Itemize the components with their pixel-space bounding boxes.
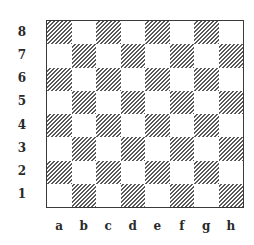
file-label-b: b	[76, 219, 92, 233]
square-g8	[194, 21, 219, 44]
square-c1	[96, 184, 121, 207]
square-d1	[121, 184, 146, 207]
square-h1	[219, 184, 244, 207]
square-f8	[170, 21, 195, 44]
rank-label-7: 7	[14, 48, 30, 62]
file-label-e: e	[149, 219, 165, 233]
square-c4	[96, 114, 121, 137]
square-b6	[72, 68, 97, 91]
square-h3	[219, 137, 244, 160]
square-e4	[145, 114, 170, 137]
square-f7	[170, 44, 195, 67]
square-e8	[145, 21, 170, 44]
square-c6	[96, 68, 121, 91]
square-g4	[194, 114, 219, 137]
square-f5	[170, 91, 195, 114]
square-d8	[121, 21, 146, 44]
square-c3	[96, 137, 121, 160]
square-d6	[121, 68, 146, 91]
square-g1	[194, 184, 219, 207]
square-f4	[170, 114, 195, 137]
rank-label-4: 4	[14, 118, 30, 132]
square-h6	[219, 68, 244, 91]
square-e2	[145, 161, 170, 184]
square-d4	[121, 114, 146, 137]
square-b7	[72, 44, 97, 67]
rank-label-3: 3	[14, 141, 30, 155]
square-h5	[219, 91, 244, 114]
square-e5	[145, 91, 170, 114]
rank-label-5: 5	[14, 94, 30, 108]
square-d2	[121, 161, 146, 184]
square-f2	[170, 161, 195, 184]
rank-label-2: 2	[14, 164, 30, 178]
file-label-d: d	[125, 219, 141, 233]
square-b3	[72, 137, 97, 160]
rank-label-8: 8	[14, 25, 30, 39]
rank-label-6: 6	[14, 71, 30, 85]
square-h4	[219, 114, 244, 137]
square-h8	[219, 21, 244, 44]
square-b1	[72, 184, 97, 207]
square-d7	[121, 44, 146, 67]
square-a2	[47, 161, 72, 184]
square-g7	[194, 44, 219, 67]
square-c5	[96, 91, 121, 114]
square-c2	[96, 161, 121, 184]
rank-label-1: 1	[14, 187, 30, 201]
square-a4	[47, 114, 72, 137]
square-c7	[96, 44, 121, 67]
square-h2	[219, 161, 244, 184]
file-label-a: a	[51, 219, 67, 233]
square-f1	[170, 184, 195, 207]
square-e3	[145, 137, 170, 160]
square-g6	[194, 68, 219, 91]
square-a1	[47, 184, 72, 207]
square-e6	[145, 68, 170, 91]
square-d5	[121, 91, 146, 114]
square-b8	[72, 21, 97, 44]
square-g3	[194, 137, 219, 160]
file-label-h: h	[223, 219, 239, 233]
file-label-c: c	[100, 219, 116, 233]
square-d3	[121, 137, 146, 160]
square-e1	[145, 184, 170, 207]
square-b4	[72, 114, 97, 137]
square-g2	[194, 161, 219, 184]
square-g5	[194, 91, 219, 114]
square-f6	[170, 68, 195, 91]
square-h7	[219, 44, 244, 67]
file-label-g: g	[198, 219, 214, 233]
square-a8	[47, 21, 72, 44]
square-c8	[96, 21, 121, 44]
square-b5	[72, 91, 97, 114]
square-f3	[170, 137, 195, 160]
chessboard	[46, 20, 244, 208]
square-a7	[47, 44, 72, 67]
square-a6	[47, 68, 72, 91]
square-a5	[47, 91, 72, 114]
square-b2	[72, 161, 97, 184]
square-a3	[47, 137, 72, 160]
file-label-f: f	[174, 219, 190, 233]
square-e7	[145, 44, 170, 67]
